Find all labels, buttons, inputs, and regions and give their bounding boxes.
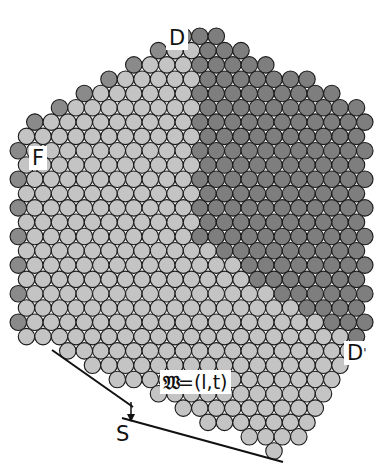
lattice-disc [159,57,176,74]
lattice-disc [249,414,266,431]
lattice-disc [299,300,316,317]
lattice-disc [18,243,35,259]
crystal-lattice-figure: D F D' 𝔚=(l,t) S [0,0,374,467]
lattice-disc [27,257,44,274]
lattice-disc [291,228,308,245]
lattice-disc [208,228,225,245]
lattice-disc [167,328,184,345]
lattice-disc [266,271,283,288]
lattice-disc [208,85,225,102]
lattice-disc [274,400,291,417]
lattice-disc [315,386,332,403]
lattice-disc [274,343,291,360]
lattice-disc [241,400,257,417]
lattice-disc [291,257,308,274]
lattice-disc [299,185,316,202]
lattice-disc [299,100,316,117]
lattice-disc [43,200,60,217]
lattice-disc [84,328,101,345]
lattice-disc [348,100,365,117]
lattice-disc [192,200,209,217]
lattice-disc [10,314,27,331]
lattice-disc [117,300,134,317]
lattice-disc [117,214,134,231]
lattice-disc [225,400,242,417]
lattice-disc [249,300,266,317]
lattice-disc [142,343,159,360]
lattice-disc [233,42,250,59]
lattice-disc [332,157,349,174]
lattice-disc [291,400,308,417]
lattice-disc [18,128,35,145]
lattice-disc [282,386,299,403]
lattice-disc [249,128,266,145]
lattice-disc [340,142,357,159]
lattice-disc [60,114,77,131]
lattice-disc [159,85,176,102]
lattice-disc [43,228,60,245]
lattice-disc [126,85,143,102]
lattice-disc [241,343,257,360]
lattice-disc [249,328,266,345]
lattice-disc [233,300,250,317]
lattice-disc [249,214,266,231]
lattice-disc [233,243,250,259]
lattice-disc [315,185,332,202]
lattice-disc [117,71,134,88]
lattice-disc [291,314,308,331]
lattice-disc [233,128,250,145]
lattice-disc [167,185,184,202]
lattice-disc [93,314,110,331]
lattice-disc [134,185,151,202]
lattice-disc [109,142,126,159]
lattice-disc [249,71,266,88]
lattice-disc [324,171,341,188]
lattice-disc [216,128,233,145]
lattice-disc [109,285,126,302]
lattice-disc [76,85,93,102]
lattice-disc [68,157,85,174]
lattice-disc [200,300,217,317]
lattice-disc [299,243,316,259]
lattice-disc [307,343,324,360]
lattice-disc [76,314,93,331]
lattice-disc [84,185,101,202]
lattice-disc [150,71,167,88]
lattice-disc [101,300,118,317]
lattice-disc [51,128,68,145]
lattice-disc [183,214,200,231]
lattice-disc [324,371,341,388]
lattice-disc [167,157,184,174]
lattice-disc [200,128,217,145]
lattice-disc [159,200,176,217]
lattice-disc [192,400,209,417]
lattice-disc [315,128,332,145]
lattice-disc [282,300,299,317]
lattice-disc [60,142,77,159]
lattice-disc [192,285,209,302]
lattice-disc [282,271,299,288]
lattice-disc [76,142,93,159]
lattice-disc [348,271,365,288]
lattice-disc [35,128,52,145]
lattice-disc [159,171,176,188]
lattice-disc [266,243,283,259]
lattice-disc [43,285,60,302]
lattice-disc [192,28,209,45]
lattice-disc [324,85,341,102]
lattice-disc [51,100,68,117]
lattice-disc [266,357,283,374]
lattice-disc [241,114,257,131]
lattice-disc [192,85,209,102]
lattice-disc [233,185,250,202]
lattice-disc [183,128,200,145]
lattice-disc [51,328,68,345]
lattice-disc [225,228,242,245]
lattice-disc [324,314,341,331]
lattice-disc [27,114,44,131]
lattice-disc [241,200,257,217]
lattice-disc [27,228,44,245]
lattice-disc [167,300,184,317]
lattice-disc [51,157,68,174]
lattice-disc [84,271,101,288]
